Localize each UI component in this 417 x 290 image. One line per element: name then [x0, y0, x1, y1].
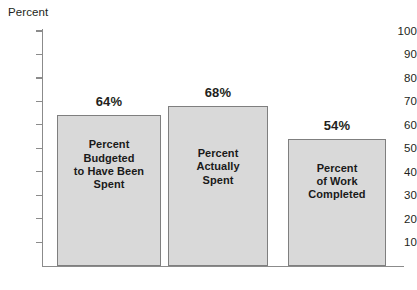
y-axis-tick-label: 50	[383, 142, 417, 154]
y-axis-line	[42, 29, 43, 267]
bar-value-label: 54%	[288, 118, 386, 133]
y-axis-tick-label: 20	[383, 213, 417, 225]
y-axis-tick-label: 100	[383, 25, 417, 37]
y-axis-tick-label: 40	[383, 166, 417, 178]
y-axis-title: Percent	[8, 6, 48, 18]
bar-category-label: Percent of Work Completed	[289, 162, 385, 202]
bar: Percent Budgeted to Have Been Spent	[57, 115, 161, 265]
bar-category-label: Percent Actually Spent	[169, 147, 267, 187]
bar: Percent of Work Completed	[288, 139, 386, 266]
y-axis-tick-label: 80	[383, 72, 417, 84]
bar-category-label: Percent Budgeted to Have Been Spent	[58, 138, 160, 191]
y-axis-tick	[36, 171, 42, 172]
y-axis-tick	[36, 101, 42, 102]
bar-value-label: 64%	[57, 94, 161, 109]
y-axis-tick-label: 60	[383, 119, 417, 131]
bar: Percent Actually Spent	[168, 106, 268, 266]
y-axis-tick	[36, 148, 42, 149]
y-axis-tick	[36, 242, 42, 243]
bar-chart: Percent 100908070605040302010 Percent Bu…	[0, 0, 417, 290]
y-axis-tick	[36, 54, 42, 55]
y-axis-tick	[36, 195, 42, 196]
y-axis-tick	[36, 218, 42, 219]
y-axis-tick	[36, 77, 42, 78]
y-axis-tick-label: 90	[383, 48, 417, 60]
y-axis-tick	[36, 30, 42, 31]
y-axis-tick-label: 10	[383, 236, 417, 248]
y-axis-tick-label: 30	[383, 189, 417, 201]
y-axis-tick	[36, 124, 42, 125]
bar-value-label: 68%	[168, 85, 268, 100]
y-axis-tick-label: 70	[383, 95, 417, 107]
x-axis-baseline	[42, 266, 404, 267]
